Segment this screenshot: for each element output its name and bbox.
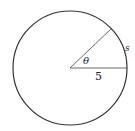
radius-label: 5	[95, 70, 102, 83]
angle-ray	[70, 29, 111, 68]
theta-label: θ	[83, 55, 89, 66]
circle-diagram: θ 5 s	[0, 0, 135, 131]
arc-label: s	[125, 43, 130, 53]
